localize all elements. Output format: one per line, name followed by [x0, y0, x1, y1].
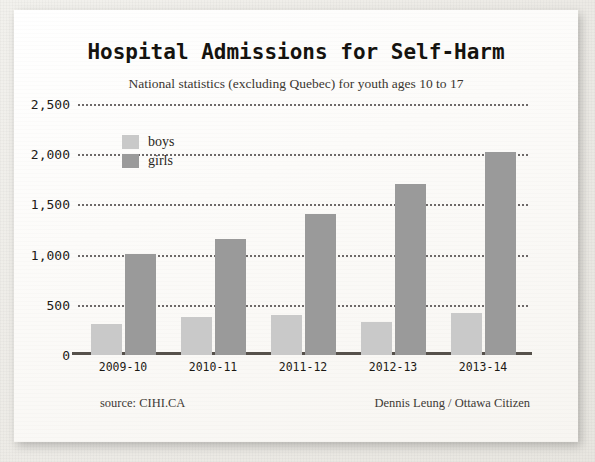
y-axis-tick-label: 1,500	[14, 197, 70, 212]
bar-boys-2012-13[interactable]	[361, 322, 392, 355]
chart-card-inner: Hospital Admissions for Self-Harm Nation…	[14, 10, 578, 442]
bar-boys-2011-12[interactable]	[271, 315, 302, 355]
page-title: Hospital Admissions for Self-Harm	[14, 40, 578, 64]
y-axis-tick-label: 2,000	[14, 147, 70, 162]
x-axis-tick-label-2012-13: 2012-13	[348, 360, 438, 374]
source-note: source: CIHI.CA	[100, 396, 185, 411]
bar-group-2012-13	[348, 104, 438, 355]
y-axis-tick-label: 1,000	[14, 247, 70, 262]
bar-boys-2009-10[interactable]	[91, 324, 122, 355]
legend-item-girls: girls	[122, 151, 174, 170]
x-axis-tick-label-2010-11: 2010-11	[168, 360, 258, 374]
y-axis-tick-label: 0	[14, 348, 70, 363]
bar-girls-2009-10[interactable]	[125, 254, 156, 355]
x-axis-tick-label-2013-14: 2013-14	[438, 360, 528, 374]
bar-girls-2012-13[interactable]	[395, 184, 426, 355]
bar-girls-2011-12[interactable]	[305, 214, 336, 355]
bar-group-2010-11	[168, 104, 258, 355]
bar-girls-2010-11[interactable]	[215, 239, 246, 355]
x-axis-tick-label-2009-10: 2009-10	[78, 360, 168, 374]
y-axis-tick-label: 500	[14, 297, 70, 312]
bar-girls-2013-14[interactable]	[485, 152, 516, 355]
bar-group-2013-14	[438, 104, 528, 355]
legend-swatch-boys-icon	[122, 135, 139, 149]
bar-boys-2010-11[interactable]	[181, 317, 212, 355]
y-axis-tick-label: 2,500	[14, 97, 70, 112]
chart-legend: boys girls	[122, 132, 174, 170]
legend-swatch-girls-icon	[122, 154, 139, 168]
chart-subtitle: National statistics (excluding Quebec) f…	[14, 76, 578, 92]
legend-label-girls: girls	[148, 153, 173, 169]
chart-card: Hospital Admissions for Self-Harm Nation…	[14, 10, 578, 442]
bar-group-2011-12	[258, 104, 348, 355]
legend-label-boys: boys	[148, 134, 174, 150]
x-axis-tick-label-2011-12: 2011-12	[258, 360, 348, 374]
bar-boys-2013-14[interactable]	[451, 313, 482, 355]
legend-item-boys: boys	[122, 132, 174, 151]
credit-note: Dennis Leung / Ottawa Citizen	[374, 396, 530, 411]
